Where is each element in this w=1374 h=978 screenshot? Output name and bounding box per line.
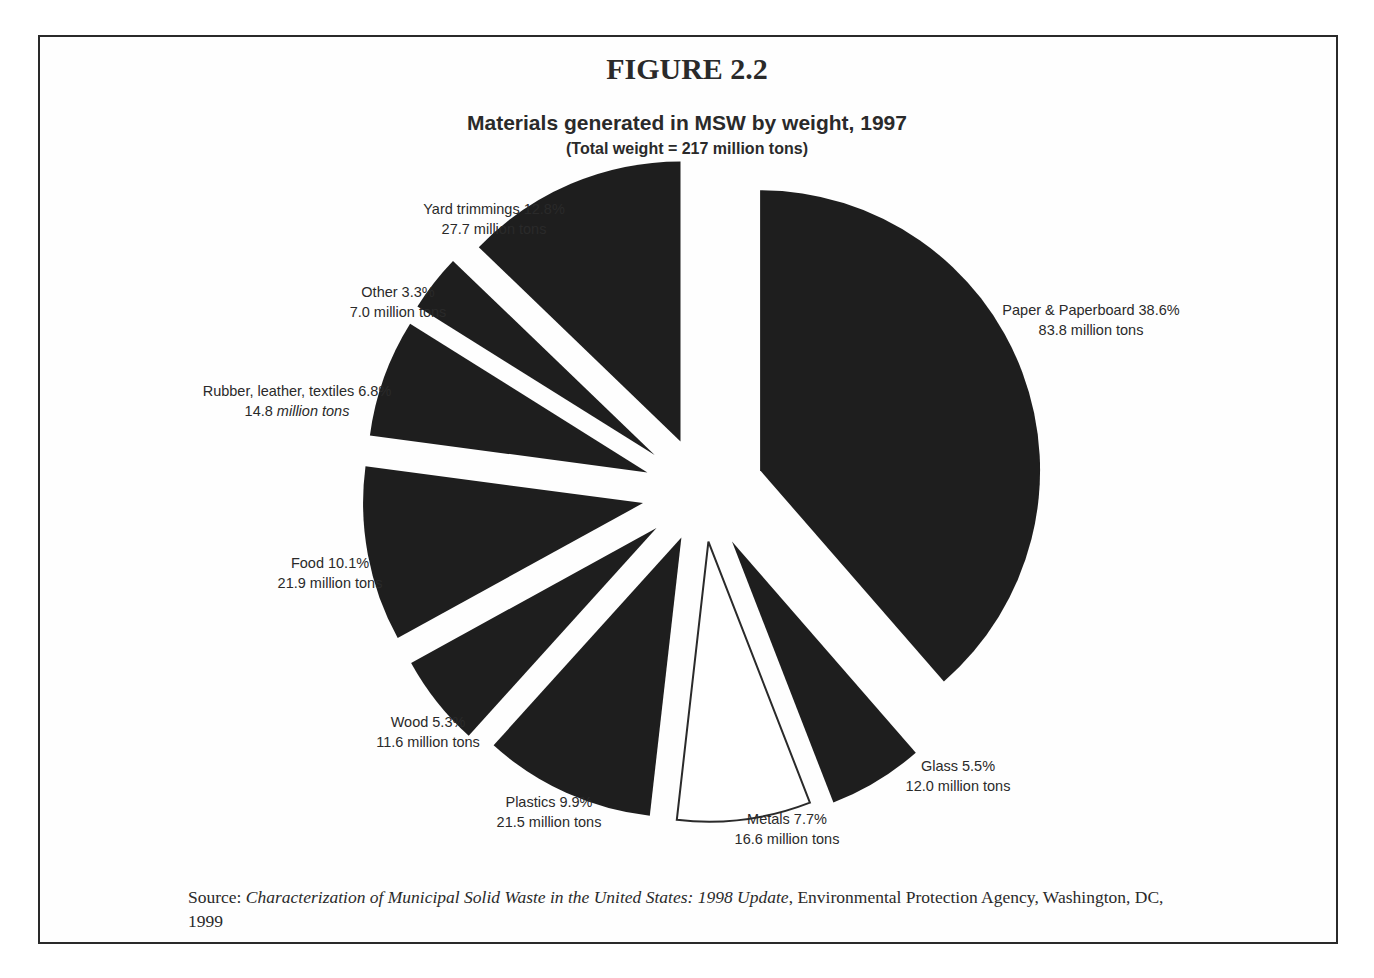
- slice-label-percent: Rubber, leather, textiles 6.8%: [203, 381, 392, 401]
- slice-label: Glass 5.5%12.0 million tons: [906, 756, 1011, 796]
- source-citation: Source: Characterization of Municipal So…: [188, 885, 1198, 933]
- source-title: Characterization of Municipal Solid Wast…: [246, 887, 789, 907]
- slice-label-percent: Yard trimmings 12.8%: [423, 199, 565, 219]
- pie-slice-paper-paperboard: [760, 190, 1040, 681]
- slice-label: Metals 7.7%16.6 million tons: [735, 809, 840, 849]
- slice-label-tons: 7.0 million tons: [350, 302, 447, 322]
- slice-label-tons: 21.5 million tons: [497, 812, 602, 832]
- source-prefix: Source:: [188, 887, 246, 907]
- slice-label-percent: Food 10.1%: [278, 553, 383, 573]
- slice-label: Plastics 9.9%21.5 million tons: [497, 792, 602, 832]
- slice-label-tons: 16.6 million tons: [735, 829, 840, 849]
- slice-label-percent: Glass 5.5%: [906, 756, 1011, 776]
- slice-label-percent: Other 3.3%: [350, 282, 447, 302]
- slice-label-tons: 83.8 million tons: [1002, 320, 1179, 340]
- slice-label-percent: Plastics 9.9%: [497, 792, 602, 812]
- slice-label-tons: 21.9 million tons: [278, 573, 383, 593]
- slice-label: Yard trimmings 12.8%27.7 million tons: [423, 199, 565, 239]
- pie-chart: [0, 0, 1374, 978]
- slice-label: Rubber, leather, textiles 6.8%14.8 milli…: [203, 381, 392, 421]
- slice-label-tons: 11.6 million tons: [376, 732, 480, 752]
- slice-label-percent: Metals 7.7%: [735, 809, 840, 829]
- slice-label: Food 10.1%21.9 million tons: [278, 553, 383, 593]
- slice-label-tons: 12.0 million tons: [906, 776, 1011, 796]
- slice-label: Other 3.3%7.0 million tons: [350, 282, 447, 322]
- pie-slice-food: [363, 466, 643, 638]
- slice-label-tons: 14.8 million tons: [203, 401, 392, 421]
- slice-label-tons: 27.7 million tons: [423, 219, 565, 239]
- slice-label: Paper & Paperboard 38.6%83.8 million ton…: [1002, 300, 1179, 340]
- slice-label-percent: Wood 5.3%: [376, 712, 480, 732]
- slice-label: Wood 5.3%11.6 million tons: [376, 712, 480, 752]
- slice-label-percent: Paper & Paperboard 38.6%: [1002, 300, 1179, 320]
